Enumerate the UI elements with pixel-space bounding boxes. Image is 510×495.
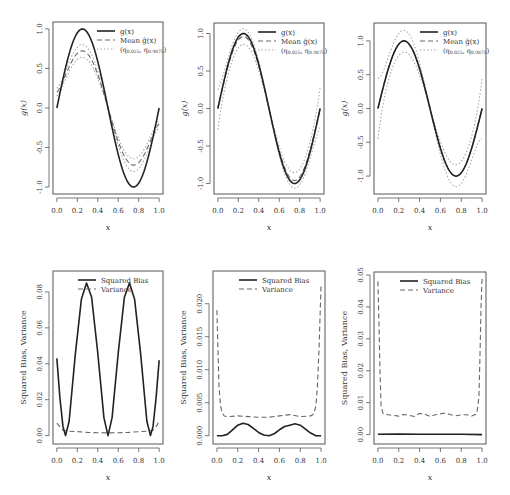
y-tick-label: -1.0 <box>357 169 365 183</box>
y-axis: -1.0-0.50.00.51.0 <box>36 23 49 193</box>
y-tick-label: 0.02 <box>36 392 44 408</box>
x-tick-label: 1.0 <box>154 457 165 465</box>
legend-label: (q0.025, q0.9875) <box>443 47 490 56</box>
y-axis: 0.000.010.020.030.040.05 <box>357 267 370 442</box>
series-squared-bias <box>378 434 482 435</box>
x-tick-label: 1.0 <box>154 207 165 215</box>
x-tick-label: 0.0 <box>51 207 62 215</box>
x-tick-label: 0.8 <box>456 457 467 465</box>
x-tick-label: 0.6 <box>274 457 286 465</box>
legend-label: Squared Bias <box>423 278 471 286</box>
x-tick-label: 0.6 <box>113 457 125 465</box>
x-axis-label: x <box>428 473 433 482</box>
legend-label: g(x) <box>281 29 295 37</box>
x-tick-label: 0.4 <box>253 207 265 215</box>
x-tick-label: 1.0 <box>477 207 488 215</box>
legend-label: g(x) <box>120 28 134 36</box>
legend-label: g(x) <box>443 29 457 37</box>
y-tick-label: -0.5 <box>357 136 365 150</box>
legend-label: Variance <box>100 286 132 294</box>
y-axis-label: Squared Bias, Variance <box>340 311 349 406</box>
x-tick-label: 0.0 <box>212 207 223 215</box>
legend-label: Mean ĝ(x) <box>120 37 156 45</box>
y-axis: 0.000.020.040.060.08 <box>36 284 49 443</box>
x-tick-label: 0.2 <box>72 207 83 215</box>
x-axis: 0.00.20.40.60.81.0 <box>372 198 487 215</box>
x-tick-label: 0.6 <box>435 457 447 465</box>
y-tick-label: 0.5 <box>36 63 44 74</box>
panel-top-left-fit: 0.00.20.40.60.81.0x-1.0-0.50.00.51.0g(x)… <box>19 22 167 232</box>
legend-label: Variance <box>422 287 454 295</box>
panel-bottom-right-bias-variance: 0.00.20.40.60.81.0x0.000.010.020.030.040… <box>340 267 488 482</box>
series-lines <box>57 283 159 436</box>
x-axis: 0.00.20.40.60.81.0 <box>212 198 325 215</box>
y-tick-label: 0.5 <box>197 65 205 76</box>
y-axis-label: g(x) <box>19 100 28 116</box>
x-tick-label: 0.2 <box>393 207 404 215</box>
x-tick-label: 0.8 <box>295 457 306 465</box>
series-variance <box>57 421 159 433</box>
series-g-x- <box>218 34 320 184</box>
y-tick-label: 0.5 <box>357 69 365 80</box>
x-tick-label: 0.0 <box>51 457 62 465</box>
y-tick-label: -0.5 <box>36 141 44 155</box>
y-tick-label: 0.0 <box>197 103 205 114</box>
y-tick-label: 0.000 <box>196 426 204 446</box>
y-axis: -1.0-0.50.00.51.0 <box>357 35 370 183</box>
x-tick-label: 0.8 <box>456 207 467 215</box>
x-tick-label: 0.6 <box>113 207 125 215</box>
x-axis-label: x <box>428 223 433 232</box>
x-axis: 0.00.20.40.60.81.0 <box>372 448 487 465</box>
legend-label: (q0.025, q0.9875) <box>120 46 167 55</box>
x-tick-label: 0.4 <box>414 207 426 215</box>
y-tick-label: 0.00 <box>357 427 365 443</box>
y-tick-label: 0.0 <box>357 103 365 114</box>
x-tick-label: 0.0 <box>211 457 222 465</box>
y-tick-label: 0.02 <box>357 363 365 379</box>
legend: g(x)Mean ĝ(x)(q0.025, q0.9875) <box>258 29 328 56</box>
x-tick-label: 1.0 <box>477 457 488 465</box>
series-squared-bias <box>57 283 159 436</box>
y-tick-label: 0.06 <box>36 320 44 336</box>
x-tick-label: 1.0 <box>315 207 326 215</box>
x-tick-label: 0.4 <box>92 457 104 465</box>
y-tick-label: 0.05 <box>357 267 365 283</box>
x-tick-label: 0.8 <box>133 457 144 465</box>
series-variance <box>378 278 482 416</box>
panel-top-middle-fit: 0.00.20.40.60.81.0x-1.0-0.50.00.51.0g(x)… <box>180 23 328 232</box>
plot-frame <box>374 272 486 444</box>
x-tick-label: 0.0 <box>372 207 383 215</box>
legend-label: (q0.025, q0.9875) <box>281 47 328 56</box>
legend-label: Squared Bias <box>262 277 310 285</box>
y-tick-label: 0.005 <box>196 393 204 413</box>
y-tick-label: 0.00 <box>36 428 44 444</box>
plot-frame <box>213 271 325 444</box>
x-tick-label: 0.6 <box>274 207 286 215</box>
x-tick-label: 0.2 <box>72 457 83 465</box>
x-axis-label: x <box>267 223 272 232</box>
panel-bottom-left-bias-variance: 0.00.20.40.60.81.0x0.000.020.040.060.08S… <box>19 271 165 482</box>
y-tick-label: 1.0 <box>357 35 365 46</box>
x-axis: 0.00.20.40.60.81.0 <box>51 448 164 465</box>
y-tick-label: 0.010 <box>196 360 204 380</box>
series-variance <box>217 284 321 417</box>
x-tick-label: 0.4 <box>253 457 265 465</box>
x-tick-label: 0.4 <box>92 207 104 215</box>
legend-label: Squared Bias <box>101 277 149 285</box>
y-tick-label: 0.01 <box>357 395 365 411</box>
x-axis-label: x <box>106 223 111 232</box>
x-tick-label: 1.0 <box>316 457 327 465</box>
y-tick-label: -1.0 <box>36 180 44 194</box>
x-tick-label: 0.6 <box>435 207 447 215</box>
x-axis-label: x <box>267 473 272 482</box>
legend-label: Variance <box>261 286 293 294</box>
x-tick-label: 0.2 <box>393 457 404 465</box>
y-tick-label: 0.020 <box>196 294 204 314</box>
y-tick-label: -0.5 <box>197 139 205 153</box>
series-lines <box>378 278 482 434</box>
legend: Squared BiasVariance <box>400 278 471 295</box>
x-tick-label: 0.8 <box>294 207 305 215</box>
y-axis: -1.0-0.50.00.51.0 <box>197 28 210 190</box>
legend: g(x)Mean ĝ(x)(q0.025, q0.9875) <box>420 29 490 56</box>
y-tick-label: 1.0 <box>36 23 44 34</box>
